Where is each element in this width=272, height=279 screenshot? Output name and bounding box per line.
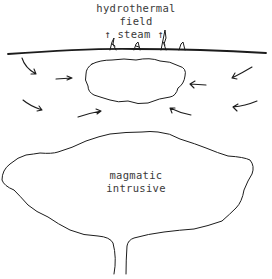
ground-surface-line <box>8 49 266 54</box>
intrusion-line-1: magmatic <box>96 169 176 182</box>
arrow-icon <box>22 58 36 74</box>
diagram-drawing <box>0 0 272 279</box>
arrow-icon <box>170 108 191 115</box>
steam-label: ↑ steam ↑ <box>103 28 165 41</box>
intrusion-line-2: intrusive <box>96 182 176 195</box>
arrow-icon <box>233 101 257 111</box>
hydrothermal-diagram: hydrothermal field <box>0 0 272 279</box>
magmatic-intrusive-label: magmatic intrusive <box>96 169 176 195</box>
arrow-icon <box>23 100 42 111</box>
steam-zone-outline <box>85 59 185 104</box>
arrow-icon <box>232 67 252 79</box>
right-inflow-arrows <box>170 67 257 115</box>
arrow-icon <box>190 81 206 88</box>
magma-body-outline <box>2 132 253 275</box>
arrow-icon <box>56 76 72 80</box>
arrow-icon <box>78 109 101 117</box>
